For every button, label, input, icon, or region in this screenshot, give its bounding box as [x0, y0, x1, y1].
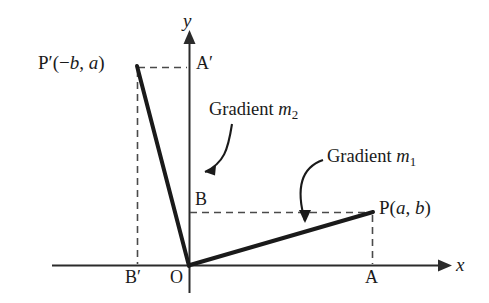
line-gradient-m1 [190, 212, 373, 265]
arrow-to-gradient-m2 [205, 124, 232, 176]
annotation-gradient-m2-symbol: m [278, 99, 291, 119]
label-a-text: A [365, 267, 378, 287]
label-p-prime: P′(−b, a) [38, 53, 105, 72]
label-a-prime-text: A′ [196, 53, 213, 73]
y-axis-arrowhead [184, 30, 196, 44]
annotation-gradient-m2-subscript: 2 [292, 107, 298, 122]
arrow-m2-curve [205, 124, 232, 172]
line-gradient-m2 [137, 66, 189, 266]
annotation-gradient-m1-symbol: m [396, 146, 409, 166]
label-p: P(a, b) [379, 198, 431, 217]
label-p-prime-text: P′(−b, a) [38, 52, 105, 73]
label-b: B [195, 190, 207, 208]
label-origin: O [170, 268, 183, 286]
geometry-figure: P′(−b, a) A′ B P(a, b) B′ O A x y Gradie… [0, 0, 489, 303]
label-y-axis-text: y [183, 10, 191, 31]
label-a: A [365, 268, 378, 286]
label-b-prime-text: B′ [125, 267, 141, 287]
annotation-gradient-m2: Gradient m2 [209, 100, 298, 122]
label-y-axis: y [183, 11, 191, 30]
x-axis [52, 260, 452, 272]
arrow-to-gradient-m1 [299, 160, 323, 223]
x-axis-arrowhead [438, 260, 452, 272]
label-x-axis: x [456, 255, 464, 274]
label-a-prime: A′ [196, 54, 213, 72]
arrow-m1-head [299, 210, 311, 223]
annotation-gradient-m1-subscript: 1 [410, 154, 416, 169]
annotation-gradient-m2-prefix: Gradient [209, 99, 278, 119]
label-x-axis-text: x [456, 254, 464, 275]
annotation-gradient-m1-prefix: Gradient [327, 146, 396, 166]
label-origin-text: O [170, 267, 183, 287]
annotation-gradient-m1: Gradient m1 [327, 147, 416, 169]
label-p-text: P(a, b) [379, 197, 431, 218]
label-b-prime: B′ [125, 268, 141, 286]
label-b-text: B [195, 189, 207, 209]
